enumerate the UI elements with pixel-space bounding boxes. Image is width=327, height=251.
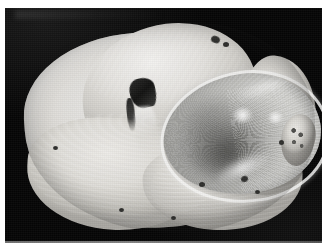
- shell-pit: [223, 42, 229, 47]
- screenshot-root: Marine bivalve shell specimen Interior v…: [0, 0, 327, 251]
- shell-pit: [279, 140, 284, 145]
- shell-pit: [171, 216, 176, 220]
- shell-pit: [53, 146, 58, 150]
- plate-bottom-edge: [5, 241, 322, 243]
- shell-pit: [119, 208, 124, 212]
- shell-pit: [199, 182, 205, 187]
- shell-pit: [255, 190, 260, 194]
- backdrop-smudge: [15, 10, 165, 19]
- photo-plate: [5, 8, 322, 243]
- shell-specimen: [23, 22, 315, 232]
- shell-right-knob-pits: [283, 122, 312, 156]
